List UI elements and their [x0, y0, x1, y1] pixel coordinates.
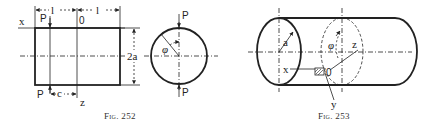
fig252-side-view: l l x P 0 P c z 2a	[18, 4, 142, 108]
fig252-cross-section: φ P P	[144, 10, 218, 98]
angle-phi-label-253: φ	[328, 39, 334, 51]
right-end-arc	[395, 18, 417, 85]
hatched-element	[315, 68, 324, 75]
z-axis-label: z	[80, 96, 85, 108]
beam-rectangle	[35, 28, 120, 85]
origin-label: 0	[79, 15, 85, 26]
length-l-right-label: l	[96, 4, 99, 16]
y-axis-label-253: y	[331, 98, 337, 110]
load-p-bottom-label: P	[37, 89, 44, 100]
height-2a-label: 2a	[127, 50, 138, 62]
z-axis-line-253	[330, 50, 358, 70]
circle-load-p-top-label: P	[182, 10, 189, 21]
phi-arc	[336, 33, 340, 58]
x-axis-label-253: x	[283, 63, 289, 75]
x-axis-label: x	[19, 15, 25, 27]
angle-arc	[170, 42, 179, 45]
offset-c-label: c	[57, 87, 62, 99]
circle-load-p-bottom-label: P	[182, 87, 189, 98]
z-axis-label-253: z	[352, 38, 357, 50]
angle-phi-label: φ	[162, 43, 168, 55]
load-p-top-label: P	[40, 13, 47, 24]
figures-canvas: l l x P 0 P c z 2a φ	[0, 0, 424, 129]
origin-label-253: 0	[326, 67, 332, 78]
length-l-left-label: l	[51, 4, 54, 16]
fig253-caption: Fig. 253	[318, 111, 350, 121]
radius-a-label: a	[283, 36, 288, 48]
fig252-caption: Fig. 252	[104, 111, 136, 121]
fig253-cylinder: a φ z x 0 y	[248, 8, 417, 110]
